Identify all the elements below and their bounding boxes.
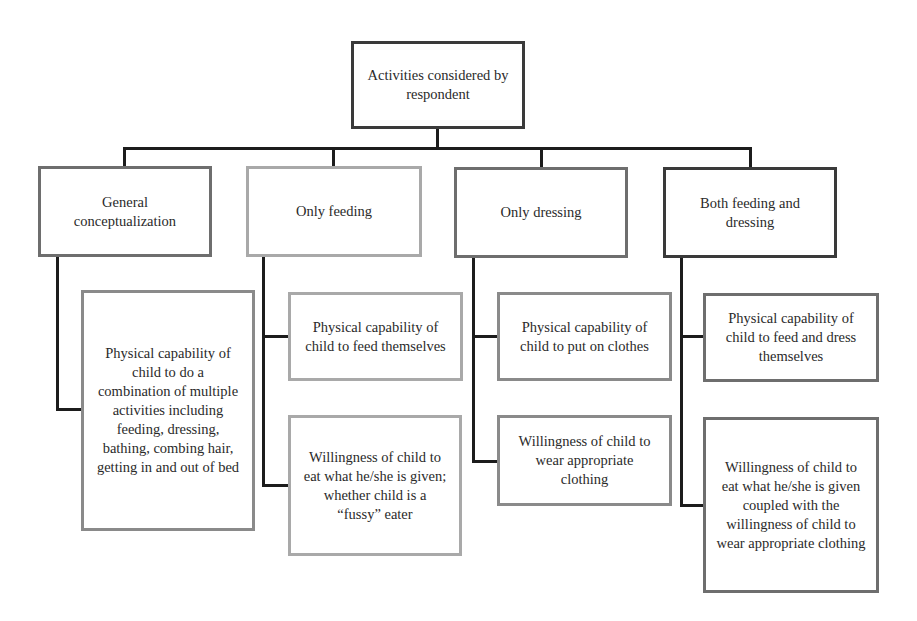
detail-label: Willingness of child to eat what he/she … (299, 448, 451, 524)
detail-dressing-physical-capability: Physical capability of child to put on c… (497, 292, 672, 381)
root-node: Activities considered by respondent (351, 41, 525, 129)
connector-root-vertical (436, 128, 439, 149)
detail-label: Willingness of child to wear appropriate… (508, 432, 661, 489)
category-general-conceptualization: General conceptualization (38, 166, 212, 257)
detail-both-physical-capability: Physical capability of child to feed and… (703, 293, 879, 382)
connector-both-h2 (680, 504, 704, 507)
connector-main-horizontal (123, 147, 752, 150)
detail-general-physical-capability: Physical capability of child to do a com… (81, 290, 255, 531)
connector-to-only-dressing (540, 147, 543, 168)
category-both-feeding-dressing: Both feeding and dressing (663, 167, 837, 258)
detail-label: Physical capability of child to put on c… (508, 318, 661, 356)
detail-label: Physical capability of child to do a com… (92, 344, 244, 477)
category-label: Both feeding and dressing (674, 194, 826, 232)
connector-to-both (749, 147, 752, 168)
detail-feeding-willingness: Willingness of child to eat what he/she … (288, 415, 462, 556)
connector-dressing-h2 (472, 460, 498, 463)
connector-general-vertical (56, 256, 59, 411)
connector-feeding-h1 (262, 335, 289, 338)
connector-to-general (123, 147, 126, 167)
detail-feeding-physical-capability: Physical capability of child to feed the… (288, 292, 463, 381)
detail-label: Physical capability of child to feed the… (299, 318, 452, 356)
category-only-feeding: Only feeding (246, 166, 422, 257)
connector-dressing-vertical (472, 257, 475, 463)
root-node-label: Activities considered by respondent (362, 66, 514, 104)
connector-general-h1 (56, 408, 82, 411)
detail-label: Willingness of child to eat what he/she … (714, 458, 868, 553)
connector-feeding-h2 (262, 484, 289, 487)
connector-both-h1 (680, 335, 704, 338)
connector-dressing-h1 (472, 335, 498, 338)
detail-dressing-willingness: Willingness of child to wear appropriate… (497, 415, 672, 506)
connector-both-vertical (680, 257, 683, 507)
detail-both-willingness: Willingness of child to eat what he/she … (703, 417, 879, 593)
category-only-dressing: Only dressing (454, 167, 628, 258)
category-label: Only feeding (296, 202, 372, 221)
category-label: Only dressing (501, 203, 582, 222)
connector-feeding-vertical (262, 256, 265, 487)
category-label: General conceptualization (49, 193, 201, 231)
detail-label: Physical capability of child to feed and… (714, 309, 868, 366)
connector-to-only-feeding (332, 147, 335, 167)
